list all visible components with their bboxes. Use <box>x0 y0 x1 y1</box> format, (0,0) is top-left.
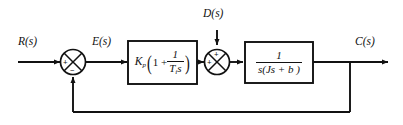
error-junction-minus-sign: − <box>70 67 75 75</box>
plant-fraction-numerator: 1 <box>274 50 284 62</box>
controller-one-plus: 1 + <box>153 57 167 68</box>
controller-close-paren: ) <box>184 54 189 72</box>
controller-fraction-numerator: 1 <box>171 49 181 61</box>
error-junction-plus-sign: + <box>63 59 68 67</box>
controller-gain-label: Kp <box>135 56 146 69</box>
disturbance-junction-plus-left-sign: + <box>207 59 212 67</box>
reference-signal-label: R(s) <box>18 36 37 48</box>
disturbance-junction-plus-top-sign: + <box>214 51 219 59</box>
controller-integral-fraction: 1 Tis <box>167 49 183 76</box>
pi-controller-expression: Kp(1 + 1 Tis ) <box>128 41 197 84</box>
control-block-diagram: R(s) E(s) D(s) C(s) + − + + Kp(1 + 1 Tis… <box>0 0 403 125</box>
plant-expression: 1 s(Js + b ) <box>245 42 313 83</box>
controller-fraction-denominator: Tis <box>167 61 183 76</box>
output-signal-label: C(s) <box>355 36 375 48</box>
error-signal-label: E(s) <box>92 36 111 48</box>
plant-fraction-denominator: s(Js + b ) <box>256 62 302 75</box>
controller-open-paren: ( <box>147 54 152 72</box>
diagram-canvas <box>0 0 403 125</box>
disturbance-signal-label: D(s) <box>203 8 223 20</box>
plant-fraction: 1 s(Js + b ) <box>256 50 302 75</box>
